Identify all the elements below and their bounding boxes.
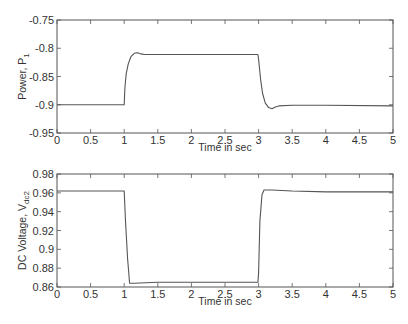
x-tick-label: 4 xyxy=(323,134,329,146)
x-tick-label: 0.5 xyxy=(83,134,98,146)
x-tick-label: 0 xyxy=(54,288,60,300)
x-tick-label: 3 xyxy=(256,134,262,146)
x-tick-label: 0 xyxy=(54,134,60,146)
x-tick-label: 1.5 xyxy=(150,288,165,300)
x-tick-label: 1 xyxy=(121,288,127,300)
y-tick-label: -0.85 xyxy=(29,71,54,83)
chart-figure: -0.75-0.8-0.85-0.9-0.95 00.511.522.533.5… xyxy=(0,0,408,324)
x-tick-label: 3 xyxy=(256,288,262,300)
x-axis-ticks: 00.511.522.533.544.55 xyxy=(54,20,396,146)
x-tick-label: 4 xyxy=(323,288,329,300)
y-tick-label: 0.9 xyxy=(39,243,54,255)
x-tick-label: 4.5 xyxy=(352,134,367,146)
y-tick-label: -0.75 xyxy=(29,14,54,26)
x-tick-label: 1.5 xyxy=(150,134,165,146)
y-tick-label: 0.92 xyxy=(33,225,54,237)
dc-voltage-curve xyxy=(57,190,393,283)
x-tick-label: 5 xyxy=(390,288,396,300)
y-tick-label: 0.86 xyxy=(33,281,54,293)
y-tick-label: 0.96 xyxy=(33,187,54,199)
x-tick-label: 3.5 xyxy=(285,288,300,300)
x-axis-ticks: 00.511.522.533.544.55 xyxy=(54,174,396,300)
y-axis-ticks: 0.980.960.940.920.90.880.86 xyxy=(33,168,393,293)
x-tick-label: 0.5 xyxy=(83,288,98,300)
power-curve xyxy=(57,53,393,109)
x-tick-label: 2 xyxy=(188,288,194,300)
y-tick-label: 0.94 xyxy=(33,206,54,218)
x-tick-label: 5 xyxy=(390,134,396,146)
y-tick-label: 0.98 xyxy=(33,168,54,180)
x-tick-label: 4.5 xyxy=(352,288,367,300)
y-axis-label: DC Voltage, Vdc2 xyxy=(16,191,31,270)
x-axis-label: Time in sec xyxy=(198,295,251,307)
x-tick-label: 1 xyxy=(121,134,127,146)
power-plot: -0.75-0.8-0.85-0.9-0.95 00.511.522.533.5… xyxy=(16,14,396,153)
plot-frame xyxy=(57,20,393,133)
y-tick-label: -0.95 xyxy=(29,127,54,139)
x-tick-label: 2 xyxy=(188,134,194,146)
dc-voltage-plot: 0.980.960.940.920.90.880.86 00.511.522.5… xyxy=(16,168,396,307)
x-tick-label: 3.5 xyxy=(285,134,300,146)
y-tick-label: 0.88 xyxy=(33,262,54,274)
x-axis-label: Time in sec xyxy=(198,141,251,153)
y-tick-label: -0.8 xyxy=(35,42,54,54)
y-axis-ticks: -0.75-0.8-0.85-0.9-0.95 xyxy=(29,14,393,139)
y-tick-label: -0.9 xyxy=(35,99,54,111)
